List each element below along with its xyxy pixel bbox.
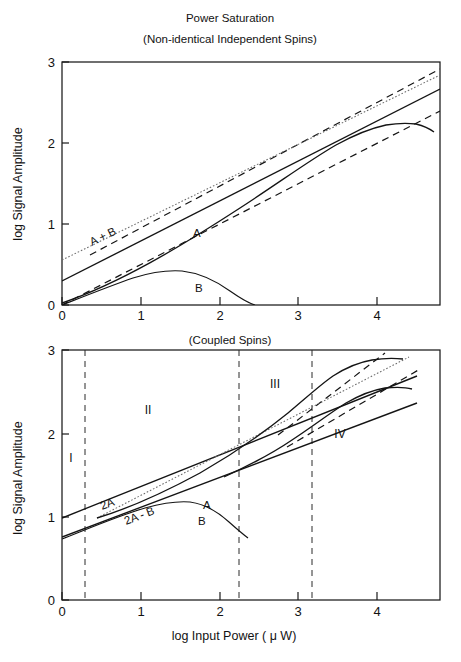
- curve-top-a-plus-b: [62, 75, 440, 260]
- panel-top-xlabel-0: 0: [58, 308, 65, 323]
- panel-bottom-y-axis-title: log Signal Amplitude: [11, 421, 25, 534]
- curve-label-b-bottom: B: [198, 515, 206, 527]
- panel-bottom: (Coupled Spins) 3 2 1 0 0 1 2 3 4 log Si…: [11, 334, 440, 643]
- region-label-iii: III: [270, 377, 280, 391]
- panel-bottom-subtitle: (Coupled Spins): [189, 334, 272, 346]
- power-saturation-figure: Power Saturation (Non-identical Independ…: [0, 0, 461, 662]
- curve-bottom-asymptote-iii: [278, 353, 385, 435]
- panel-top-xlabel-4: 4: [373, 308, 380, 323]
- panel-bottom-xlabel-3: 3: [294, 604, 301, 619]
- panel-top-y-axis-title: log Signal Amplitude: [11, 127, 25, 240]
- panel-bottom-xlabel-4: 4: [373, 604, 380, 619]
- panel-bottom-ylabel-2: 2: [48, 427, 55, 442]
- figure-svg: Power Saturation (Non-identical Independ…: [0, 0, 461, 662]
- panel-top-ylabel-3: 3: [48, 55, 55, 70]
- panel-top: (Non-identical Independent Spins) 3 2 1 …: [11, 33, 440, 323]
- curve-label-b: B: [195, 282, 203, 294]
- curve-bottom-upper-observed: [97, 358, 403, 518]
- panel-bottom-ylabel-1: 1: [48, 510, 55, 525]
- panel-top-frame: [62, 62, 440, 305]
- panel-top-xlabel-2: 2: [216, 308, 223, 323]
- panel-top-xlabel-1: 1: [137, 308, 144, 323]
- region-label-iv: IV: [334, 427, 345, 441]
- curve-label-a: A: [193, 227, 201, 239]
- panel-top-xlabel-3: 3: [294, 308, 301, 323]
- curve-top-upper-asymptote: [90, 69, 440, 255]
- curve-bottom-lower-observed: [224, 387, 412, 477]
- region-label-ii: II: [145, 403, 152, 417]
- curve-top-b: [62, 271, 255, 305]
- panel-bottom-ylabel-3: 3: [48, 343, 55, 358]
- panel-bottom-xlabel-0: 0: [58, 604, 65, 619]
- panel-top-ylabel-1: 1: [48, 217, 55, 232]
- x-axis-title: log Input Power ( μ W): [172, 629, 297, 643]
- panel-bottom-xlabel-1: 1: [137, 604, 144, 619]
- curve-bottom-asymptote-iv: [287, 369, 420, 447]
- panel-top-ylabel-0: 0: [48, 298, 55, 313]
- region-label-i: I: [69, 451, 72, 465]
- panel-bottom-frame: [62, 350, 440, 600]
- figure-title: Power Saturation: [186, 12, 274, 24]
- curve-bottom-2a-minus-b: [97, 357, 409, 518]
- curve-label-a-bottom: A: [203, 499, 211, 511]
- curve-top-b-asymptote: [62, 111, 440, 305]
- curve-label-a-plus-b: A + B: [88, 225, 119, 248]
- curve-top-a: [62, 89, 440, 281]
- panel-top-ylabel-2: 2: [48, 136, 55, 151]
- panel-bottom-xlabel-2: 2: [216, 604, 223, 619]
- panel-top-subtitle: (Non-identical Independent Spins): [143, 33, 317, 45]
- panel-bottom-ylabel-0: 0: [48, 593, 55, 608]
